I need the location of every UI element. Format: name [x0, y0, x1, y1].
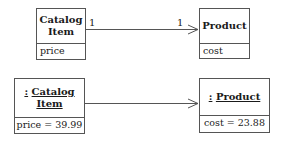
- object-name-prefix: :: [209, 91, 213, 103]
- object-name-prefix: :: [24, 86, 28, 97]
- object-name-line2: Item: [36, 98, 62, 110]
- source-multiplicity: 1: [89, 18, 95, 28]
- object-name-text: Product: [216, 91, 260, 103]
- object-attribute: cost = 23.88: [200, 115, 269, 132]
- object-product: : Product cost = 23.88: [199, 78, 270, 133]
- object-name: : Catalog Item: [15, 79, 84, 118]
- link-line: [84, 99, 198, 108]
- class-name-line1: Catalog: [40, 14, 83, 26]
- class-catalog-item: Catalog Item price: [36, 8, 86, 60]
- target-multiplicity: 1: [177, 18, 183, 28]
- class-attribute: cost: [200, 43, 249, 58]
- class-name-line2: Item: [48, 26, 74, 38]
- object-name-line1: : Catalog: [24, 86, 74, 98]
- object-catalog-item: : Catalog Item price = 39.99: [14, 78, 85, 134]
- class-product: Product cost: [199, 8, 250, 59]
- class-name: Product: [200, 9, 249, 44]
- class-attribute: price: [37, 43, 85, 59]
- object-name: : Product: [200, 79, 269, 116]
- object-attribute: price = 39.99: [15, 117, 84, 133]
- class-name: Catalog Item: [37, 9, 85, 44]
- object-name-part1: Catalog: [32, 86, 75, 97]
